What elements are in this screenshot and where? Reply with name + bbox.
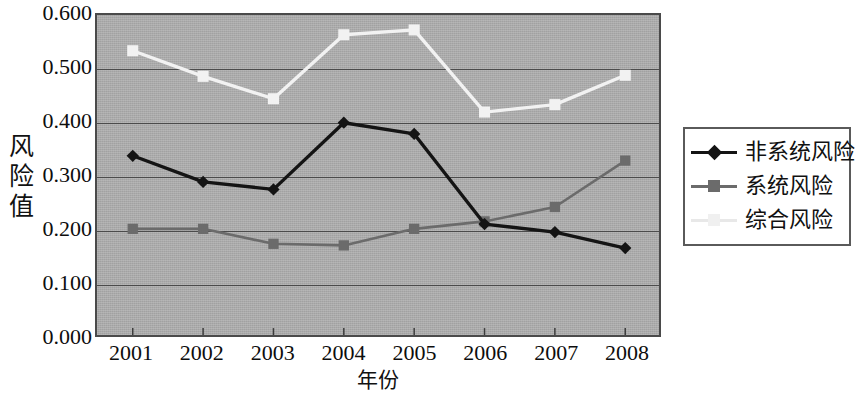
data-point-marker xyxy=(128,224,138,234)
y-axis-tick-label: 0.000 xyxy=(30,326,92,348)
legend-square-icon xyxy=(691,175,737,197)
plot-area xyxy=(95,13,661,337)
y-axis-tick-label: 0.100 xyxy=(30,272,92,294)
data-point-marker xyxy=(339,240,349,250)
x-axis-tick-label: 2001 xyxy=(96,340,166,366)
x-axis-tick-label: 2006 xyxy=(450,340,520,366)
x-axis-tick-label: 2005 xyxy=(379,340,449,366)
data-point-marker xyxy=(620,155,630,165)
chart-legend: 非系统风险系统风险综合风险 xyxy=(683,127,851,246)
data-point-marker xyxy=(549,226,561,238)
data-point-marker xyxy=(268,239,278,249)
y-axis-tick-label: 0.400 xyxy=(30,110,92,132)
x-axis-tick-label: 2002 xyxy=(167,340,237,366)
x-axis-tick-label: 2008 xyxy=(592,340,662,366)
legend-item-label: 综合风险 xyxy=(737,208,833,232)
y-axis-tick-label: 0.600 xyxy=(30,2,92,24)
data-point-marker xyxy=(338,29,349,40)
data-point-marker xyxy=(127,45,138,56)
data-point-marker xyxy=(550,202,560,212)
legend-item: 非系统风险 xyxy=(691,135,843,169)
data-point-marker xyxy=(549,99,560,110)
x-axis-tick-labels: 20012002200320042005200620072008 xyxy=(95,340,661,370)
data-point-marker xyxy=(268,93,279,104)
data-point-marker xyxy=(479,107,490,118)
data-point-marker xyxy=(198,71,209,82)
x-axis-tick-label: 2007 xyxy=(521,340,591,366)
legend-item: 综合风险 xyxy=(691,203,843,237)
data-point-marker xyxy=(409,24,420,35)
legend-item-label: 非系统风险 xyxy=(737,140,855,164)
x-axis-tick-label: 2004 xyxy=(309,340,379,366)
legend-item: 系统风险 xyxy=(691,169,843,203)
data-point-marker xyxy=(127,150,139,162)
data-point-marker xyxy=(197,176,209,188)
data-point-marker xyxy=(409,224,419,234)
data-point-marker xyxy=(198,224,208,234)
x-axis-tick-label: 2003 xyxy=(238,340,308,366)
data-point-marker xyxy=(620,70,631,81)
y-axis-tick-label: 0.300 xyxy=(30,164,92,186)
legend-square-icon xyxy=(691,209,737,231)
risk-line-chart-figure: 风 险 值 0.6000.5000.4000.3000.2000.1000.00… xyxy=(0,0,856,394)
y-axis-tick-label: 0.500 xyxy=(30,56,92,78)
series-lines xyxy=(97,15,659,335)
x-axis-title: 年份 xyxy=(95,368,661,392)
y-axis-tick-label: 0.200 xyxy=(30,218,92,240)
data-point-marker xyxy=(619,242,631,254)
legend-item-label: 系统风险 xyxy=(737,174,833,198)
y-axis-tick-labels: 0.6000.5000.4000.3000.2000.1000.000 xyxy=(28,0,92,394)
legend-diamond-icon xyxy=(691,141,737,163)
